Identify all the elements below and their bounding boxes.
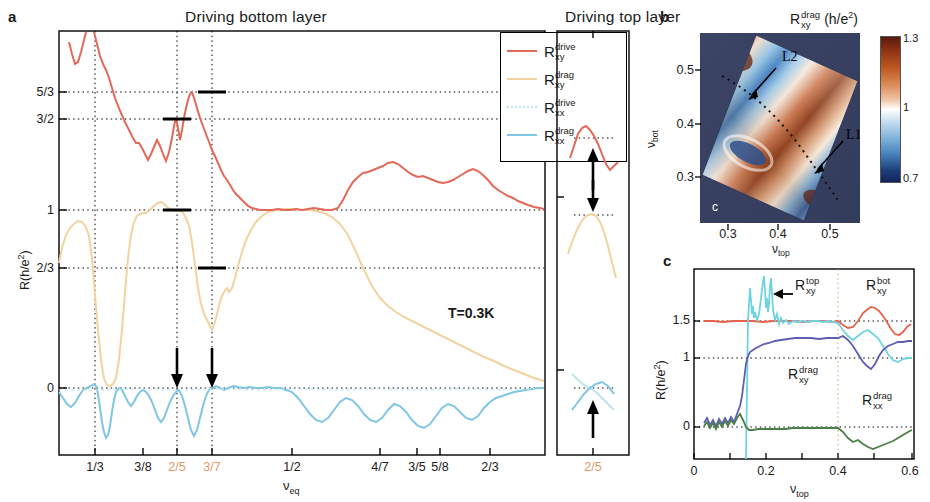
panel-a-main-plot bbox=[58, 30, 548, 458]
heatmap-label-L2: L2 bbox=[782, 49, 798, 64]
panel-b-xtick-0: 0.3 bbox=[708, 227, 748, 241]
panel-a-arrow-2-5 bbox=[171, 348, 183, 388]
cbar-sub: xy bbox=[801, 19, 811, 30]
right-arrow-up-rxx bbox=[587, 400, 599, 438]
panel-c-letter: c bbox=[663, 252, 671, 269]
panel-c-ytick-2: 0 bbox=[655, 419, 690, 433]
panel-c-arrow-rxy-top bbox=[773, 289, 793, 299]
panel-c-xlabel: νtop bbox=[790, 482, 809, 499]
heatmap-inner-label-c: c bbox=[712, 200, 718, 214]
curve-rxx-drive bbox=[59, 389, 544, 390]
panel-c-ylabel-text: R(h/e bbox=[654, 369, 668, 400]
legend-R-0: R bbox=[544, 43, 555, 60]
panel-b-ylabel-main: ν bbox=[644, 142, 658, 148]
panel-a-xtick-4: 1/2 bbox=[272, 460, 312, 474]
panel-c-ytick-0: 1.5 bbox=[655, 313, 690, 327]
legend-swatch-rxx-drag bbox=[507, 134, 537, 136]
panel-b-ylabel-sub: bot bbox=[650, 130, 660, 142]
legend-swatch-rxy-drive bbox=[507, 50, 537, 52]
legend-swatch-rxy-drag bbox=[507, 78, 537, 80]
panel-b-ytick-marks bbox=[694, 33, 702, 223]
panel-a-xtick-2: 2/5 bbox=[157, 460, 197, 474]
panel-c-ylabel-sup: 2 bbox=[652, 364, 662, 369]
panel-b-xtick-2: 0.5 bbox=[810, 227, 850, 241]
panel-c-sub-3: xx bbox=[873, 400, 883, 411]
panel-c-sub-2: xy bbox=[799, 374, 809, 385]
panel-b-heatmap: L2 L1 c bbox=[700, 33, 860, 223]
panel-a-temperature-annotation: T=0.3K bbox=[448, 305, 494, 321]
panel-c-sub-0: xy bbox=[806, 285, 816, 296]
panel-a-ylabel-tail: ) bbox=[18, 250, 32, 254]
panel-b-colorbar bbox=[880, 36, 901, 183]
panel-b-colorbar-title: Rdragxy(h/e2) bbox=[790, 10, 858, 27]
panel-a-xlabel-sub: eq bbox=[290, 486, 300, 496]
panel-b-cbar-tick-2: 0.7 bbox=[903, 172, 918, 184]
panel-a-level-markers bbox=[163, 92, 226, 268]
panel-a-xlabel: νeq bbox=[283, 478, 300, 496]
cbar-unit-tail: ) bbox=[853, 11, 858, 27]
panel-b-ytick-0: 0.5 bbox=[656, 63, 694, 77]
panel-a-yticks bbox=[59, 92, 67, 388]
panel-a-right-xtick: 2/5 bbox=[573, 460, 613, 474]
panel-c-ytick-marks bbox=[694, 321, 700, 427]
panel-a-title-left: Driving bottom layer bbox=[185, 8, 327, 26]
panel-c-curve-rxy-top bbox=[746, 276, 912, 459]
cbar-R: R bbox=[790, 11, 800, 27]
heatmap-label-L1: L1 bbox=[846, 127, 860, 142]
curve-rxy-drag bbox=[59, 202, 544, 386]
panel-b-ytick-2: 0.3 bbox=[656, 170, 694, 184]
panel-b-xtick-1: 0.4 bbox=[758, 227, 798, 241]
panel-c-ytick-1: 1 bbox=[655, 350, 690, 364]
cbar-unit: (h/e bbox=[824, 11, 848, 27]
panel-b-cbar-tick-0: 1.3 bbox=[903, 32, 918, 44]
panel-a-ytick-2: 1 bbox=[10, 203, 54, 217]
panel-a-xtick-5: 4/7 bbox=[360, 460, 400, 474]
panel-b-xlabel: νtop bbox=[772, 242, 790, 258]
panel-c-xtick-2: 0.4 bbox=[818, 464, 858, 478]
legend-R-1: R bbox=[544, 71, 555, 88]
panel-b-letter: b bbox=[660, 8, 669, 25]
panel-a-ytick-3: 2/3 bbox=[10, 261, 54, 275]
right-arrow-down-drag bbox=[587, 180, 599, 212]
curve-rxx-drag bbox=[59, 384, 544, 438]
panel-c-label-rxy-drag: Rdragxy bbox=[788, 366, 822, 382]
panel-a-xtick-8: 2/3 bbox=[470, 460, 510, 474]
panel-c-xtick-1: 0.2 bbox=[746, 464, 786, 478]
panel-c-xlabel-sub: top bbox=[796, 489, 809, 499]
legend-R-2: R bbox=[544, 99, 555, 116]
panel-c-label-rxy-bot: Rbotxy bbox=[866, 277, 898, 293]
panel-c-xtick-0: 0 bbox=[674, 464, 714, 478]
panel-a-right-plot bbox=[556, 30, 630, 458]
panel-c-xtick-3: 0.6 bbox=[890, 464, 930, 478]
panel-a-ytick-0: 5/3 bbox=[10, 85, 54, 99]
panel-a-xtick-7: 5/8 bbox=[420, 460, 460, 474]
right-curve-rxy-drag bbox=[568, 214, 616, 278]
legend-R-3: R bbox=[544, 127, 555, 144]
panel-a-ylabel-sup: 2 bbox=[16, 254, 26, 259]
panel-c-label-rxy-top: Rtopxy bbox=[795, 277, 827, 293]
panel-c-R-0: R bbox=[795, 277, 805, 293]
panel-a-letter: a bbox=[8, 8, 16, 25]
panel-c-R-1: R bbox=[866, 277, 876, 293]
panel-b-ytick-1: 0.4 bbox=[656, 117, 694, 131]
panel-c-xtick-marks bbox=[694, 453, 912, 459]
panel-a-ytick-4: 0 bbox=[10, 381, 54, 395]
panel-b-xlabel-sub: top bbox=[778, 248, 790, 258]
panel-c-sub-1: xy bbox=[877, 285, 887, 296]
panel-c-R-3: R bbox=[862, 392, 872, 408]
panel-c-label-rxx-drag: Rdragxx bbox=[862, 392, 896, 408]
panel-a-xtick-0: 1/3 bbox=[75, 460, 115, 474]
legend-swatch-rxx-drive bbox=[507, 106, 537, 108]
panel-a-xtick-3: 3/7 bbox=[192, 460, 232, 474]
curve-rxy-drive bbox=[69, 32, 544, 210]
panel-a-arrow-3-7 bbox=[206, 348, 218, 388]
panel-a-ytick-1: 3/2 bbox=[10, 112, 54, 126]
figure-root: a Driving bottom layer Driving top layer… bbox=[0, 0, 930, 502]
panel-a-xticks bbox=[95, 448, 490, 455]
panel-c-R-2: R bbox=[788, 366, 798, 382]
panel-b-cbar-tick-1: 1 bbox=[903, 101, 909, 113]
